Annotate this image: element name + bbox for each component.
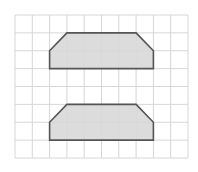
grid-diagram bbox=[0, 0, 198, 172]
upper-hexagon bbox=[50, 33, 154, 69]
lower-hexagon bbox=[50, 104, 154, 140]
